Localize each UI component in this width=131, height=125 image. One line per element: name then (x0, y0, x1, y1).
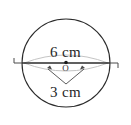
radius-label: 3 cm (0, 85, 131, 100)
diameter-label: 6 cm (0, 45, 131, 60)
center-point-label: O (0, 64, 131, 73)
circle-diagram-figure: 6 cm 3 cm O (0, 0, 131, 125)
